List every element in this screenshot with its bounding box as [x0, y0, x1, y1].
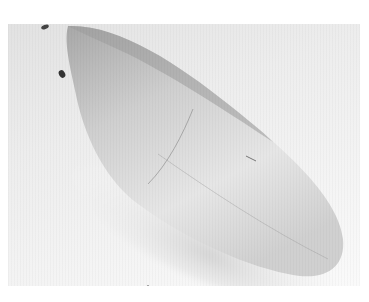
last-body — [67, 26, 344, 276]
shoe-last-illustration — [8, 24, 360, 286]
shoe-last-photo — [8, 24, 360, 286]
hole-dot — [57, 69, 66, 79]
mark-dot — [41, 24, 50, 30]
